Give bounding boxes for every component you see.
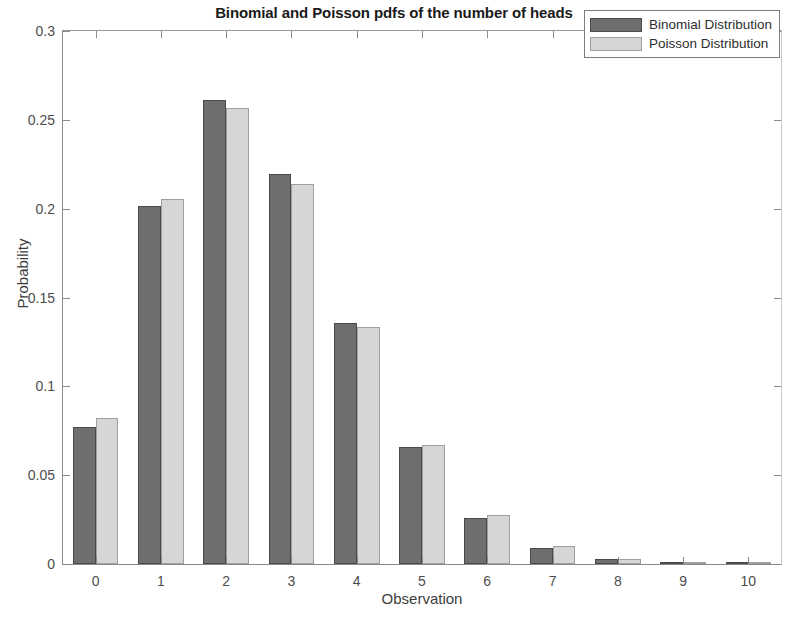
- x-tick-label: 3: [288, 573, 296, 589]
- y-tick-mark: [63, 386, 70, 387]
- y-tick-mark: [774, 120, 781, 121]
- y-tick-label: 0: [47, 556, 55, 572]
- y-tick-mark: [63, 564, 70, 565]
- y-tick-mark: [774, 564, 781, 565]
- y-tick-label: 0.3: [36, 23, 55, 39]
- y-tick-label: 0.15: [28, 290, 55, 306]
- x-tick-mark: [487, 31, 488, 38]
- x-tick-label: 1: [157, 573, 165, 589]
- x-tick-mark: [226, 557, 227, 564]
- bar-poisson-7: [553, 546, 576, 564]
- legend-entry-binomial: Binomial Distribution: [590, 15, 772, 34]
- bar-binomial-7: [530, 548, 553, 564]
- bar-poisson-2: [226, 108, 249, 564]
- x-tick-mark: [291, 557, 292, 564]
- x-tick-label: 9: [679, 573, 687, 589]
- bar-binomial-8: [595, 559, 618, 564]
- figure-canvas: Binomial and Poisson pdfs of the number …: [0, 0, 788, 617]
- x-axis-label: Observation: [62, 590, 782, 607]
- legend-label-binomial: Binomial Distribution: [649, 17, 772, 32]
- y-axis-label: Probability: [14, 214, 31, 334]
- x-tick-mark: [161, 31, 162, 38]
- bar-binomial-0: [73, 427, 96, 564]
- y-tick-label: 0.1: [36, 378, 55, 394]
- x-tick-mark: [291, 31, 292, 38]
- bar-poisson-3: [291, 184, 314, 564]
- bar-poisson-6: [487, 515, 510, 564]
- x-tick-label: 6: [483, 573, 491, 589]
- x-tick-mark: [618, 557, 619, 564]
- legend-swatch-poisson: [590, 37, 642, 51]
- bar-poisson-4: [357, 327, 380, 564]
- y-tick-label: 0.2: [36, 201, 55, 217]
- y-tick-mark: [63, 209, 70, 210]
- bar-poisson-8: [618, 559, 641, 565]
- x-tick-mark: [226, 31, 227, 38]
- y-tick-mark: [63, 298, 70, 299]
- y-tick-mark: [774, 209, 781, 210]
- x-tick-label: 2: [222, 573, 230, 589]
- x-tick-mark: [357, 31, 358, 38]
- y-tick-mark: [63, 120, 70, 121]
- legend: Binomial Distribution Poisson Distributi…: [584, 10, 780, 58]
- bar-binomial-4: [334, 323, 357, 564]
- legend-swatch-binomial: [590, 18, 642, 32]
- plot-area: 00.050.10.150.20.250.3012345678910: [62, 30, 782, 565]
- legend-label-poisson: Poisson Distribution: [649, 36, 768, 51]
- x-tick-mark: [487, 557, 488, 564]
- y-tick-mark: [774, 475, 781, 476]
- y-tick-mark: [774, 386, 781, 387]
- x-tick-mark: [96, 31, 97, 38]
- x-tick-label: 0: [92, 573, 100, 589]
- bar-binomial-10: [726, 562, 749, 564]
- x-tick-label: 4: [353, 573, 361, 589]
- x-tick-mark: [553, 31, 554, 38]
- y-tick-mark: [774, 298, 781, 299]
- x-tick-mark: [161, 557, 162, 564]
- y-tick-mark: [63, 475, 70, 476]
- x-tick-label: 5: [418, 573, 426, 589]
- bar-poisson-1: [161, 199, 184, 564]
- y-tick-mark: [63, 31, 70, 32]
- bar-binomial-1: [138, 206, 161, 564]
- bars-layer: [63, 31, 781, 564]
- bar-binomial-2: [203, 100, 226, 564]
- x-tick-mark: [96, 557, 97, 564]
- bar-binomial-3: [269, 174, 292, 564]
- y-tick-label: 0.25: [28, 112, 55, 128]
- y-tick-label: 0.05: [28, 467, 55, 483]
- bar-poisson-5: [422, 445, 445, 564]
- x-tick-label: 7: [549, 573, 557, 589]
- x-tick-label: 10: [741, 573, 757, 589]
- bar-poisson-9: [683, 562, 706, 564]
- bar-poisson-0: [96, 418, 119, 564]
- x-tick-label: 8: [614, 573, 622, 589]
- bar-binomial-6: [464, 518, 487, 564]
- x-tick-mark: [553, 557, 554, 564]
- bar-poisson-10: [748, 562, 771, 564]
- bar-binomial-9: [660, 562, 683, 564]
- x-tick-mark: [683, 557, 684, 564]
- x-tick-mark: [422, 31, 423, 38]
- x-tick-mark: [748, 557, 749, 564]
- legend-entry-poisson: Poisson Distribution: [590, 34, 772, 53]
- x-tick-mark: [422, 557, 423, 564]
- x-tick-mark: [357, 557, 358, 564]
- bar-binomial-5: [399, 447, 422, 564]
